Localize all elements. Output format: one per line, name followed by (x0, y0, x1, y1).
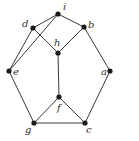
node-g (31, 120, 36, 125)
labels: idbheafgc (13, 1, 107, 135)
node-label-e: e (13, 66, 19, 77)
node-label-g: g (25, 124, 31, 135)
edge-i-e (9, 14, 58, 71)
node-label-a: a (101, 66, 107, 77)
graph-svg: idbheafgc (0, 0, 139, 141)
edge-e-g (9, 71, 34, 123)
edge-d-e (9, 28, 33, 71)
edge-h-f (58, 53, 59, 97)
node-b (81, 24, 86, 29)
edge-a-c (85, 71, 110, 123)
node-f (56, 94, 61, 99)
edge-f-g (34, 97, 59, 123)
node-d (30, 25, 35, 30)
edge-i-d (33, 14, 58, 28)
node-h (55, 50, 60, 55)
node-label-h: h (54, 37, 60, 48)
node-label-c: c (86, 124, 92, 135)
edge-i-b (58, 14, 84, 27)
node-e (6, 68, 11, 73)
node-a (107, 68, 112, 73)
node-label-f: f (56, 102, 63, 113)
node-label-i: i (63, 1, 66, 12)
node-i (55, 11, 60, 16)
graph-diagram: idbheafgc (0, 0, 139, 141)
edge-b-h (58, 27, 84, 53)
edge-b-a (84, 27, 110, 71)
node-label-d: d (22, 18, 28, 29)
edge-f-c (59, 97, 85, 123)
node-label-b: b (88, 19, 94, 30)
